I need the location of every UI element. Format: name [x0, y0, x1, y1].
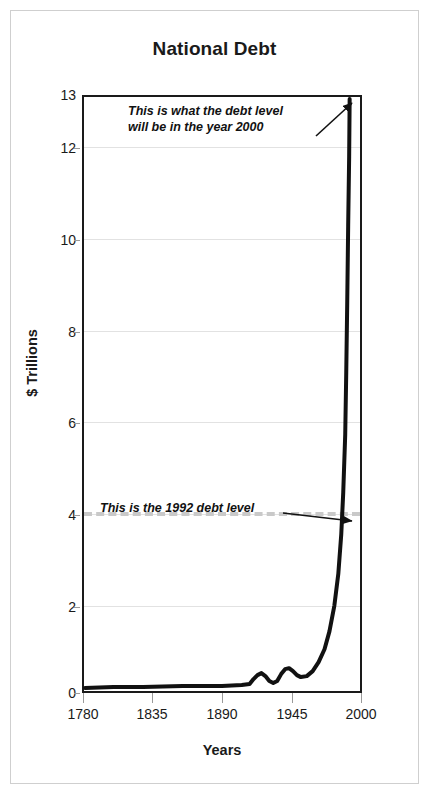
x-tick-mark-1945 — [292, 693, 293, 703]
y-tick-label-13: 13 — [36, 88, 76, 102]
y-tick-label-10: 10 — [36, 233, 76, 247]
x-tick-mark-1890 — [222, 693, 223, 703]
y-axis-tick-layer: 0 2 4 6 8 10 12 13 — [28, 95, 76, 693]
y-tick-label-6: 6 — [36, 416, 76, 430]
annotation-1992-debt-level-text: This is the 1992 debt level — [100, 500, 315, 516]
y-tick-mark-12 — [74, 148, 80, 149]
chart-title: National Debt — [0, 38, 429, 60]
x-tick-label-1945: 1945 — [257, 706, 327, 722]
y-tick-mark-4 — [74, 515, 80, 516]
x-tick-label-2000: 2000 — [326, 706, 396, 722]
y-tick-mark-2 — [74, 607, 80, 608]
y-tick-label-2: 2 — [36, 600, 76, 614]
x-tick-mark-1780 — [83, 693, 84, 703]
x-tick-label-1890: 1890 — [187, 706, 257, 722]
annotation-year-2000-text: This is what the debt level will be in t… — [128, 103, 333, 135]
x-tick-label-1835: 1835 — [117, 706, 187, 722]
y-tick-mark-10 — [74, 240, 80, 241]
y-tick-label-4: 4 — [36, 508, 76, 522]
x-axis-title: Years — [82, 742, 362, 758]
y-tick-label-0: 0 — [36, 686, 76, 700]
x-axis-tick-layer: 1780 1835 1890 1945 2000 — [82, 693, 362, 733]
x-tick-mark-2000 — [361, 693, 362, 703]
y-tick-mark-8 — [74, 332, 80, 333]
x-tick-label-1780: 1780 — [48, 706, 118, 722]
x-tick-mark-1835 — [152, 693, 153, 703]
y-tick-label-12: 12 — [36, 141, 76, 155]
y-tick-mark-6 — [74, 423, 80, 424]
y-tick-label-8: 8 — [36, 325, 76, 339]
national-debt-curve — [84, 97, 360, 691]
y-tick-mark-0 — [74, 693, 80, 694]
plot-area — [82, 95, 362, 693]
national-debt-chart-figure: National Debt $ Trillions 0 2 4 6 8 10 1… — [0, 0, 429, 794]
